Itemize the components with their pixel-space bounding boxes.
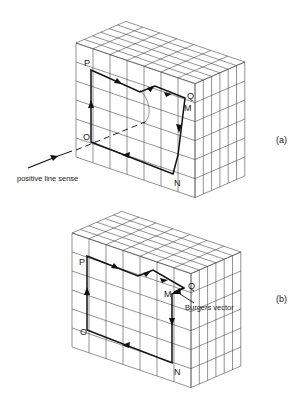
panel-a: P Q M O N positive line sense (a) [17,21,287,197]
point-label-O: O [80,327,87,337]
point-label-Q: Q [187,91,194,101]
point-label-P: P [79,257,85,267]
burgers-circuit-a [91,70,185,174]
perfect-lattice-grid [72,211,241,387]
lattice-distortion-curve [140,90,149,122]
point-label-N: N [174,367,181,377]
positive-line-sense-arrowhead [50,155,58,161]
point-label-M: M [184,103,192,113]
line-sense-connector [58,151,72,156]
point-label-N: N [174,178,181,188]
circuit-arrow [122,152,130,158]
burgers-circuit-b [87,256,184,363]
burgers-vector-label: Burgers vector [185,303,234,312]
point-label-P: P [84,58,90,68]
point-label-Q: Q [188,281,195,291]
distorted-lattice-grid [76,21,245,197]
burgers-vector-pointer [180,294,194,303]
point-label-O: O [83,132,90,142]
burgers-circuit-diagram: P Q M O N positive line sense (a) P Q M … [0,0,304,401]
point-label-M: M [164,289,172,299]
panel-label-a: (a) [276,135,287,145]
positive-line-sense-label: positive line sense [17,174,78,183]
burgers-vector-arrowhead [172,288,181,294]
panel-b: P Q M O N Burgers vector (b) [72,211,287,387]
panel-label-b: (b) [276,294,287,304]
